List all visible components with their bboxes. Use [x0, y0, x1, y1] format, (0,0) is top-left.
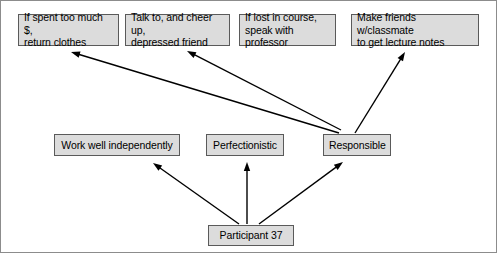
node-label: If lost in course, speak with professor — [240, 11, 335, 49]
node-label: Work well independently — [55, 139, 179, 152]
node-label: Participant 37 — [209, 229, 293, 242]
node-label: Responsible — [324, 139, 391, 152]
arrow-shaft — [158, 166, 239, 224]
edge-responsible-notes — [355, 52, 405, 133]
arrow-shaft — [355, 57, 402, 133]
node-label: If spent too much $, return clothes — [19, 11, 118, 49]
edge-responsible-spend — [71, 52, 339, 133]
arrow-shaft — [192, 54, 341, 130]
node-label: Make friends w/classmate to get lecture … — [352, 11, 478, 49]
arrow-head — [244, 162, 250, 171]
arrow-head — [153, 163, 162, 171]
arrow-head — [71, 52, 81, 58]
diagram-canvas: If spent too much $, return clothesTalk … — [0, 0, 497, 253]
node-label: Perfectionistic — [207, 139, 283, 152]
node-trait-responsible[interactable]: Responsible — [323, 134, 391, 156]
arrow-head — [187, 51, 196, 58]
node-behavior-notes[interactable]: Make friends w/classmate to get lecture … — [351, 14, 479, 46]
node-label: Talk to, and cheer up, depressed friend — [126, 11, 229, 49]
arrow-head — [334, 162, 343, 170]
node-behavior-cheer[interactable]: Talk to, and cheer up, depressed friend — [125, 14, 230, 46]
node-participant[interactable]: Participant 37 — [208, 225, 294, 246]
node-behavior-spend[interactable]: If spent too much $, return clothes — [18, 14, 119, 46]
edge-participant-perfectionistic — [244, 162, 250, 224]
arrow-head — [398, 52, 405, 61]
node-trait-perfectionistic[interactable]: Perfectionistic — [206, 134, 284, 156]
node-trait-independent[interactable]: Work well independently — [54, 134, 180, 156]
edge-responsible-cheer — [187, 51, 341, 130]
edge-participant-independent — [153, 163, 239, 224]
arrow-shaft — [259, 166, 338, 224]
arrow-shaft — [77, 54, 339, 133]
edge-participant-responsible — [259, 162, 343, 224]
node-behavior-professor[interactable]: If lost in course, speak with professor — [239, 14, 336, 46]
